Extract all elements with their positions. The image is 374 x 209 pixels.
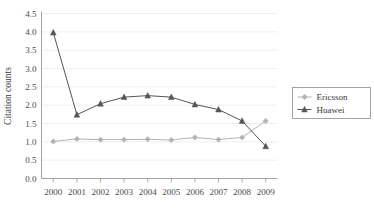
x-tick-label: 2009: [257, 187, 276, 197]
citation-counts-line-chart: 0.00.51.01.52.02.53.03.54.04.5 200020012…: [0, 0, 374, 209]
x-tick-label: 2007: [210, 187, 229, 197]
y-tick-label: 3.5: [25, 45, 37, 55]
y-tick-label: 1.0: [25, 137, 37, 147]
legend-label-ericsson: Ericsson: [317, 92, 348, 102]
data-point-huawei: [239, 118, 245, 124]
x-tick-label: 2001: [68, 187, 86, 197]
x-tick-label: 2003: [115, 187, 134, 197]
y-tick-label: 3.0: [25, 64, 37, 74]
data-point-ericsson: [51, 139, 56, 144]
y-axis-title: Citation counts: [3, 67, 13, 125]
y-tick-label: 1.5: [25, 119, 37, 129]
x-tick-label: 2008: [233, 187, 252, 197]
chart-canvas: 0.00.51.01.52.02.53.03.54.04.5 200020012…: [0, 0, 374, 209]
data-point-ericsson: [192, 135, 197, 140]
legend-label-huawei: Huawei: [317, 105, 345, 115]
x-tick-label: 2000: [44, 187, 63, 197]
legend: EricssonHuawei: [293, 88, 371, 119]
x-axis-tick-labels: 2000200120022003200420052006200720082009: [44, 187, 275, 197]
y-tick-label: 2.0: [25, 100, 37, 110]
x-axis-tick-marks: [53, 179, 265, 183]
y-tick-label: 2.5: [25, 82, 37, 92]
y-tick-label: 0.5: [25, 155, 37, 165]
x-tick-label: 2005: [162, 187, 181, 197]
data-point-ericsson: [74, 136, 79, 141]
y-tick-label: 4.0: [25, 27, 37, 37]
data-point-ericsson: [145, 137, 150, 142]
y-tick-label: 0.0: [25, 174, 37, 184]
x-tick-label: 2004: [139, 187, 158, 197]
data-series-group: [50, 29, 268, 148]
x-tick-label: 2002: [92, 187, 110, 197]
y-axis-tick-labels: 0.00.51.01.52.02.53.03.54.04.5: [25, 9, 37, 184]
series-line-ericsson: [53, 121, 265, 142]
y-tick-label: 4.5: [25, 9, 37, 19]
series-line-huawei: [53, 33, 265, 147]
x-tick-label: 2006: [186, 187, 205, 197]
data-point-huawei: [50, 29, 56, 35]
data-point-huawei: [74, 112, 80, 118]
